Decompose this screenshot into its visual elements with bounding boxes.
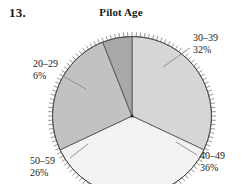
rim-tick	[52, 141, 56, 142]
slice-label-50-59-percent: 26%	[30, 167, 55, 179]
rim-tick	[206, 86, 210, 88]
rim-tick	[119, 33, 120, 37]
rim-tick	[106, 36, 107, 40]
slice-label-50-59-range: 50–59	[30, 155, 55, 167]
rim-tick	[208, 90, 212, 91]
rim-tick	[90, 43, 92, 47]
rim-tick	[79, 51, 82, 55]
slice-label-30-39-range: 30–39	[193, 32, 218, 44]
rim-tick	[102, 38, 104, 42]
rim-tick	[49, 103, 53, 104]
rim-tick	[179, 48, 182, 52]
rim-tick	[191, 60, 194, 63]
rim-tick	[64, 163, 68, 166]
slice-label-30-39: 30–39 32%	[193, 32, 218, 55]
rim-tick	[160, 38, 162, 42]
rim-tick	[203, 78, 207, 80]
slice-label-40-49-range: 40–49	[200, 150, 225, 162]
rim-tick	[54, 86, 58, 88]
rim-tick	[67, 166, 71, 169]
rim-tick	[79, 178, 82, 182]
rim-tick	[62, 159, 66, 161]
rim-tick	[73, 57, 76, 60]
rim-tick	[172, 43, 174, 47]
rim-tick	[194, 63, 198, 66]
rim-tick	[50, 99, 54, 100]
rim-tick	[55, 82, 59, 84]
rim-tick	[185, 175, 188, 178]
rim-tick	[209, 94, 213, 95]
rim-tick	[191, 169, 194, 172]
rim-tick	[67, 63, 71, 66]
rim-tick	[59, 156, 63, 158]
slice-label-20-29-range: 20–29	[33, 58, 58, 70]
pie-center-dot	[130, 114, 133, 117]
rim-tick	[210, 99, 214, 100]
rim-tick	[57, 152, 61, 154]
rim-tick	[55, 148, 59, 150]
rim-tick	[188, 57, 191, 60]
rim-tick	[210, 133, 214, 134]
rim-tick	[52, 90, 56, 91]
rim-tick	[144, 33, 145, 37]
rim-tick	[49, 128, 53, 129]
rim-tick	[98, 39, 100, 43]
slice-label-20-29-percent: 6%	[33, 70, 58, 82]
rim-tick	[211, 128, 215, 129]
rim-tick	[211, 103, 215, 104]
rim-tick	[168, 41, 170, 45]
rim-tick	[201, 74, 205, 76]
rim-tick	[64, 67, 68, 70]
rim-tick	[62, 70, 66, 72]
rim-tick	[76, 54, 79, 57]
rim-tick	[196, 67, 200, 70]
pie-chart-figure: 13. Pilot Age 30–39 32% 40–49 36% 50–59 …	[0, 0, 242, 184]
slice-label-50-59: 50–59 26%	[30, 155, 55, 178]
rim-tick	[199, 70, 203, 72]
rim-tick	[188, 172, 191, 175]
slice-label-40-49: 40–49 36%	[200, 150, 225, 173]
slice-label-30-39-percent: 32%	[193, 44, 218, 56]
rim-tick	[164, 39, 166, 43]
rim-tick	[149, 34, 150, 38]
rim-tick	[70, 169, 73, 172]
rim-tick	[194, 166, 198, 169]
rim-tick	[86, 46, 88, 50]
rim-tick	[115, 34, 116, 38]
rim-tick	[73, 172, 76, 175]
rim-tick	[185, 54, 188, 57]
rim-tick	[50, 133, 54, 134]
rim-tick	[175, 46, 177, 50]
rim-tick	[76, 175, 79, 178]
slice-label-40-49-percent: 36%	[200, 162, 225, 174]
rim-tick	[209, 137, 213, 138]
rim-tick	[206, 144, 210, 146]
rim-tick	[182, 178, 185, 182]
rim-tick	[179, 180, 182, 184]
rim-tick	[54, 144, 58, 146]
rim-tick	[70, 60, 73, 63]
rim-tick	[153, 35, 154, 39]
rim-tick	[157, 36, 158, 40]
rim-tick	[205, 82, 209, 84]
rim-tick	[83, 180, 86, 184]
rim-tick	[94, 41, 96, 45]
rim-tick	[51, 94, 55, 95]
rim-tick	[110, 35, 111, 39]
rim-tick	[59, 74, 63, 76]
rim-tick	[208, 141, 212, 142]
rim-tick	[83, 48, 86, 52]
rim-tick	[51, 137, 55, 138]
slice-label-20-29: 20–29 6%	[33, 58, 58, 81]
